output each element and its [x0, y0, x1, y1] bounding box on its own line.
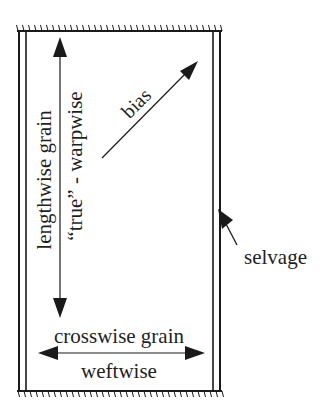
weftwise-label: weftwise: [81, 359, 157, 383]
arrowhead-down-icon: [53, 298, 67, 318]
crosswise-grain-arrow: [38, 346, 205, 360]
selvage-label: selvage: [244, 245, 307, 269]
arrowhead-right-icon: [185, 346, 205, 360]
bias-arrow-shaft: [102, 71, 188, 158]
lengthwise-grain-label: lengthwise grain: [32, 110, 56, 250]
warpwise-label: “true” - warpwise: [63, 91, 87, 240]
bias-label: bias: [117, 84, 155, 122]
selvage-arrow-shaft: [225, 222, 237, 245]
arrowhead-up-icon: [53, 37, 67, 57]
crosswise-grain-label: crosswise grain: [54, 324, 185, 348]
fabric-grain-diagram: lengthwise grain “true” - warpwise bias …: [0, 0, 331, 416]
arrowhead-left-icon: [38, 346, 58, 360]
bias-arrow: [102, 61, 198, 158]
